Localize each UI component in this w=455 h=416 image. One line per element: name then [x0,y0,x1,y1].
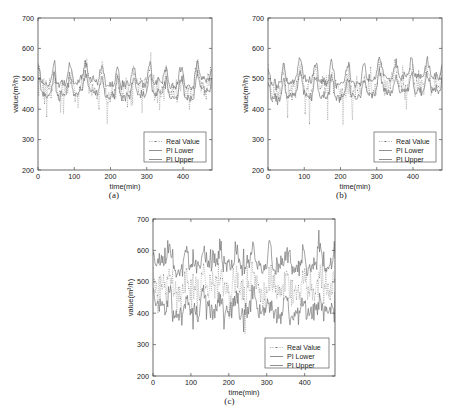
data-marker [390,88,391,89]
data-marker [116,74,117,75]
data-marker [335,80,336,81]
y-tick-label: 300 [252,135,264,144]
data-marker [92,84,93,85]
data-marker [190,89,191,90]
x-tick-label: 300 [371,172,383,181]
data-marker [157,295,158,296]
data-marker [228,292,229,293]
data-marker [317,280,318,281]
chart-svg-b: 0100200300400200300400500600700time(min)… [228,2,455,192]
data-marker [114,89,115,90]
data-marker [239,291,240,292]
data-marker [276,87,277,88]
data-marker [386,94,387,95]
data-marker [171,91,172,92]
data-marker [262,306,263,307]
data-marker [429,78,430,79]
data-marker [81,77,82,78]
data-marker [330,299,331,300]
data-marker [162,87,163,88]
x-tick-label: 0 [266,172,270,181]
panel-caption-b: (b) [228,190,455,200]
y-axis-title: value(m³/h) [241,75,250,112]
data-marker [296,299,297,300]
data-marker [325,270,326,271]
y-tick-label: 200 [22,166,34,175]
data-marker [243,299,244,300]
data-marker [313,73,314,74]
data-marker [290,297,291,298]
data-marker [285,85,286,86]
data-marker [357,90,358,91]
data-marker [158,78,159,79]
data-marker [237,287,238,288]
data-marker [414,83,415,84]
y-tick-label: 700 [252,14,264,23]
data-marker [302,271,303,272]
data-marker [42,80,43,81]
y-tick-label: 400 [22,105,34,114]
data-marker [103,83,104,84]
data-marker [399,86,400,87]
data-marker [272,101,273,102]
data-marker [207,294,208,295]
data-marker [188,88,189,89]
data-marker [145,79,146,80]
x-tick-label: 200 [335,172,347,181]
data-marker [273,276,274,277]
y-tick-label: 500 [252,74,264,83]
plot-area-c [153,230,335,334]
data-marker [142,86,143,87]
x-tick-label: 100 [68,172,80,181]
data-marker [305,113,306,114]
x-tick-label: 200 [223,378,235,387]
data-marker [134,74,135,75]
data-marker [388,92,389,93]
data-marker [159,277,160,278]
data-marker [436,75,437,76]
data-marker [377,83,378,84]
data-marker [407,85,408,86]
data-marker [164,84,165,85]
data-marker [46,116,47,117]
data-marker [205,287,206,288]
data-marker [169,92,170,93]
data-marker [410,68,411,69]
data-marker [283,74,284,75]
data-marker [423,84,424,85]
data-marker [285,275,286,276]
data-marker [264,299,265,300]
data-marker [324,89,325,90]
chart-panel-c: 0100200300400200300400500600700time(min)… [112,206,347,416]
data-marker [306,288,307,289]
data-marker [281,294,282,295]
y-tick-label: 600 [137,246,149,255]
y-tick-label: 200 [137,372,149,381]
data-marker [329,82,330,83]
data-marker [186,87,187,88]
data-marker [138,92,139,93]
data-marker [348,65,349,66]
legend-label-pi-upper: PI Upper [287,362,315,370]
legend-label-pi-lower: PI Lower [166,147,194,154]
data-marker [372,95,373,96]
data-marker [375,84,376,85]
legend-label-pi-lower: PI Lower [396,147,424,154]
x-tick-label: 100 [185,378,197,387]
data-marker [416,80,417,81]
data-marker [149,70,150,71]
data-marker [118,88,119,89]
data-marker [79,87,80,88]
data-marker [180,298,181,299]
data-marker [277,294,278,295]
x-tick-label: 0 [36,172,40,181]
data-marker [319,277,320,278]
data-marker [224,283,225,284]
data-marker [53,74,54,75]
data-marker [222,278,223,279]
legend-marker-real-value [155,141,156,142]
data-marker [269,267,270,268]
data-marker [178,287,179,288]
chart-svg-a: 0100200300400200300400500600700time(min)… [0,2,228,192]
data-marker [163,274,164,275]
